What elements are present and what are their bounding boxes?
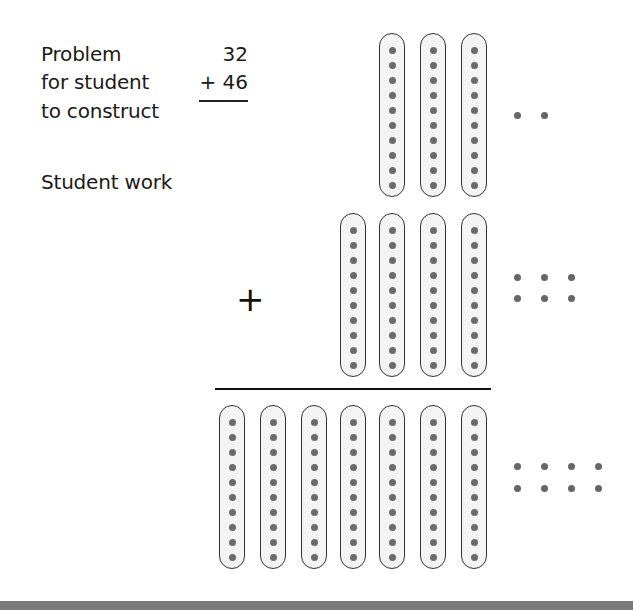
one-dot bbox=[514, 274, 521, 281]
one-dot bbox=[541, 112, 548, 119]
unit-dot bbox=[350, 539, 357, 546]
unit-dot bbox=[471, 464, 478, 471]
addend-top: 32 bbox=[188, 41, 248, 68]
unit-dot bbox=[430, 92, 437, 99]
unit-dot bbox=[389, 287, 396, 294]
unit-dot bbox=[471, 317, 478, 324]
unit-dot bbox=[430, 434, 437, 441]
unit-dot bbox=[430, 317, 437, 324]
unit-dot bbox=[229, 479, 236, 486]
unit-dot bbox=[471, 47, 478, 54]
unit-dot bbox=[471, 182, 478, 189]
one-dot bbox=[595, 485, 602, 492]
unit-dot bbox=[430, 167, 437, 174]
unit-dot bbox=[311, 524, 318, 531]
unit-dot bbox=[471, 347, 478, 354]
unit-dot bbox=[270, 494, 277, 501]
ten-stick bbox=[420, 33, 446, 197]
unit-dot bbox=[311, 539, 318, 546]
unit-dot bbox=[430, 302, 437, 309]
unit-dot bbox=[270, 449, 277, 456]
unit-dot bbox=[430, 242, 437, 249]
unit-dot bbox=[229, 524, 236, 531]
unit-dot bbox=[471, 92, 478, 99]
unit-dot bbox=[389, 509, 396, 516]
ten-stick bbox=[461, 405, 487, 569]
plus-sign: + bbox=[236, 282, 265, 316]
unit-dot bbox=[430, 152, 437, 159]
unit-dot bbox=[430, 77, 437, 84]
unit-dot bbox=[389, 47, 396, 54]
unit-dot bbox=[229, 419, 236, 426]
unit-dot bbox=[430, 494, 437, 501]
one-dot bbox=[541, 274, 548, 281]
unit-dot bbox=[350, 257, 357, 264]
unit-dot bbox=[270, 554, 277, 561]
unit-dot bbox=[430, 449, 437, 456]
unit-dot bbox=[471, 227, 478, 234]
unit-dot bbox=[389, 62, 396, 69]
unit-dot bbox=[350, 554, 357, 561]
one-dot bbox=[514, 485, 521, 492]
unit-dot bbox=[430, 539, 437, 546]
unit-dot bbox=[471, 62, 478, 69]
problem-label-line-3: to construct bbox=[41, 98, 159, 125]
unit-dot bbox=[471, 152, 478, 159]
unit-dot bbox=[471, 107, 478, 114]
unit-dot bbox=[350, 362, 357, 369]
unit-dot bbox=[430, 227, 437, 234]
one-dot bbox=[541, 485, 548, 492]
one-dot bbox=[568, 485, 575, 492]
unit-dot bbox=[350, 242, 357, 249]
unit-dot bbox=[471, 449, 478, 456]
unit-dot bbox=[389, 167, 396, 174]
unit-dot bbox=[389, 554, 396, 561]
unit-dot bbox=[350, 317, 357, 324]
unit-dot bbox=[389, 242, 396, 249]
unit-dot bbox=[389, 137, 396, 144]
unit-dot bbox=[389, 302, 396, 309]
sum-line bbox=[215, 388, 491, 390]
unit-dot bbox=[229, 554, 236, 561]
unit-dot bbox=[311, 494, 318, 501]
unit-dot bbox=[270, 524, 277, 531]
unit-dot bbox=[430, 479, 437, 486]
one-dot bbox=[568, 295, 575, 302]
unit-dot bbox=[311, 449, 318, 456]
unit-dot bbox=[471, 77, 478, 84]
unit-dot bbox=[311, 479, 318, 486]
unit-dot bbox=[430, 137, 437, 144]
unit-dot bbox=[311, 434, 318, 441]
unit-dot bbox=[389, 92, 396, 99]
unit-dot bbox=[350, 434, 357, 441]
unit-dot bbox=[471, 332, 478, 339]
bottom-border bbox=[0, 601, 633, 610]
unit-dot bbox=[389, 257, 396, 264]
ten-stick bbox=[340, 405, 366, 569]
unit-dot bbox=[430, 419, 437, 426]
unit-dot bbox=[430, 554, 437, 561]
unit-dot bbox=[389, 152, 396, 159]
unit-dot bbox=[350, 494, 357, 501]
unit-dot bbox=[430, 107, 437, 114]
unit-dot bbox=[430, 362, 437, 369]
unit-dot bbox=[471, 524, 478, 531]
unit-dot bbox=[311, 419, 318, 426]
unit-dot bbox=[430, 272, 437, 279]
unit-dot bbox=[430, 347, 437, 354]
ten-stick bbox=[340, 213, 366, 377]
unit-dot bbox=[350, 272, 357, 279]
one-dot bbox=[541, 295, 548, 302]
unit-dot bbox=[270, 419, 277, 426]
ten-stick bbox=[461, 213, 487, 377]
problem-label-line-1: Problem bbox=[41, 41, 121, 68]
one-dot bbox=[514, 112, 521, 119]
unit-dot bbox=[430, 509, 437, 516]
unit-dot bbox=[350, 479, 357, 486]
one-dot bbox=[514, 295, 521, 302]
unit-dot bbox=[471, 302, 478, 309]
unit-dot bbox=[389, 332, 396, 339]
unit-dot bbox=[471, 167, 478, 174]
unit-dot bbox=[389, 539, 396, 546]
unit-dot bbox=[471, 137, 478, 144]
